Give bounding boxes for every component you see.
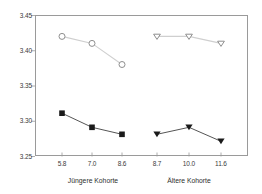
chart-container: 3.45 3.40 3.35 3.30 3.25 5.8 7.0 8.6 8.7… [0,0,262,194]
x-tick-label: 8.7 [145,160,169,168]
group-label-aeltere-kohorte: Ältere Kohorte [134,176,244,185]
x-tick-label: 10.0 [177,160,201,168]
x-tick-label: 7.0 [80,160,104,168]
x-tick-label: 5.8 [50,160,74,168]
x-axis-labels: 5.8 7.0 8.6 8.7 10.0 11.6 [0,0,262,194]
x-tick-label: 11.6 [209,160,233,168]
group-label-juengere-kohorte: Jüngere Kohorte [38,176,148,185]
x-tick-label: 8.6 [110,160,134,168]
